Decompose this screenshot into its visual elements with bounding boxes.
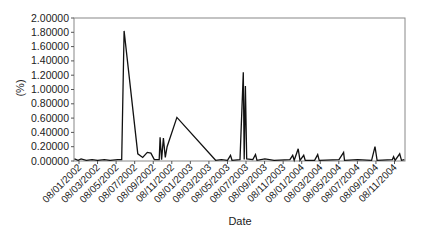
y-tick-label: 1.40000 xyxy=(31,54,69,66)
y-axis: 0.000000.200000.400000.600000.800001.000… xyxy=(31,12,74,167)
y-tick-label: 1.20000 xyxy=(31,69,69,81)
y-tick-label: 2.00000 xyxy=(31,12,69,24)
line-chart: 0.000000.200000.400000.600000.800001.000… xyxy=(0,0,422,238)
y-tick-label: 0.80000 xyxy=(31,97,69,109)
y-tick-label: 0.20000 xyxy=(31,140,69,152)
y-tick-label: 1.00000 xyxy=(31,83,69,95)
x-axis: 08/01/200208/03/200208/05/200208/07/2002… xyxy=(40,161,399,205)
y-tick-label: 0.60000 xyxy=(31,112,69,124)
y-tick-label: 0.00000 xyxy=(31,155,69,167)
x-axis-label: Date xyxy=(228,215,251,227)
y-tick-label: 0.40000 xyxy=(31,126,69,138)
y-axis-label: (%) xyxy=(14,79,26,96)
y-tick-label: 1.80000 xyxy=(31,26,69,38)
y-tick-label: 1.60000 xyxy=(31,40,69,52)
